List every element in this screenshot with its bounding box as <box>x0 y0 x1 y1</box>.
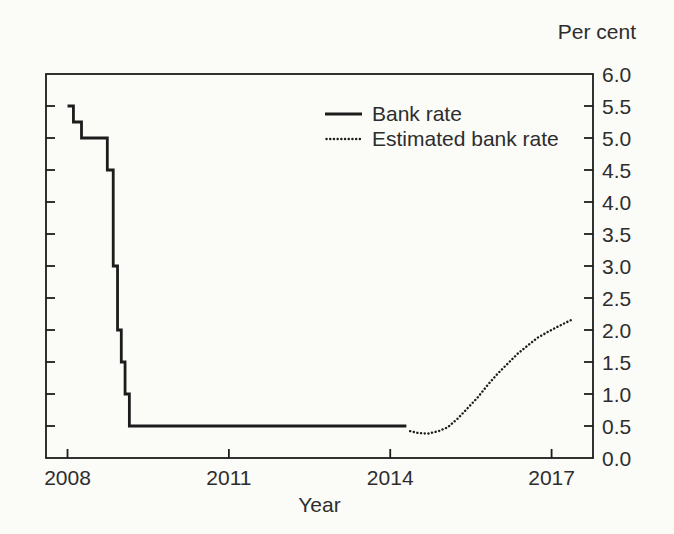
y-tick-label: 1.5 <box>602 351 631 374</box>
x-tick-label: 2008 <box>44 466 91 489</box>
legend-item-bank-rate: Bank rate <box>325 101 559 126</box>
y-tick-label: 6.0 <box>602 63 631 86</box>
legend-label-bank-rate: Bank rate <box>372 102 462 126</box>
y-tick-label: 5.5 <box>602 95 631 118</box>
y-tick-label: 4.5 <box>602 159 631 182</box>
estimated-bank-rate-line <box>410 319 573 434</box>
y-tick-label: 0.5 <box>602 415 631 438</box>
y-tick-label: 0.0 <box>602 447 631 470</box>
y-tick-label: 3.0 <box>602 255 631 278</box>
legend-item-estimated-bank-rate: Estimated bank rate <box>325 126 559 151</box>
legend-label-estimated-bank-rate: Estimated bank rate <box>372 127 559 151</box>
dotted-line-sample <box>325 135 362 143</box>
x-axis-title: Year <box>46 493 593 517</box>
x-tick-label: 2014 <box>367 466 414 489</box>
legend: Bank rate Estimated bank rate <box>325 101 559 151</box>
y-tick-label: 3.5 <box>602 223 631 246</box>
chart-canvas: 0.00.51.01.52.02.53.03.54.04.55.05.56.02… <box>0 0 674 534</box>
y-tick-label: 2.5 <box>602 287 631 310</box>
bank-rate-line <box>68 106 407 426</box>
solid-line-sample <box>325 110 362 118</box>
y-tick-label: 4.0 <box>602 191 631 214</box>
x-tick-label: 2011 <box>206 466 251 489</box>
bank-rate-chart: Per cent 0.00.51.01.52.02.53.03.54.04.55… <box>0 0 674 534</box>
x-tick-label: 2017 <box>528 466 575 489</box>
y-tick-label: 5.0 <box>602 127 631 150</box>
y-tick-label: 1.0 <box>602 383 631 406</box>
y-tick-label: 2.0 <box>602 319 631 342</box>
